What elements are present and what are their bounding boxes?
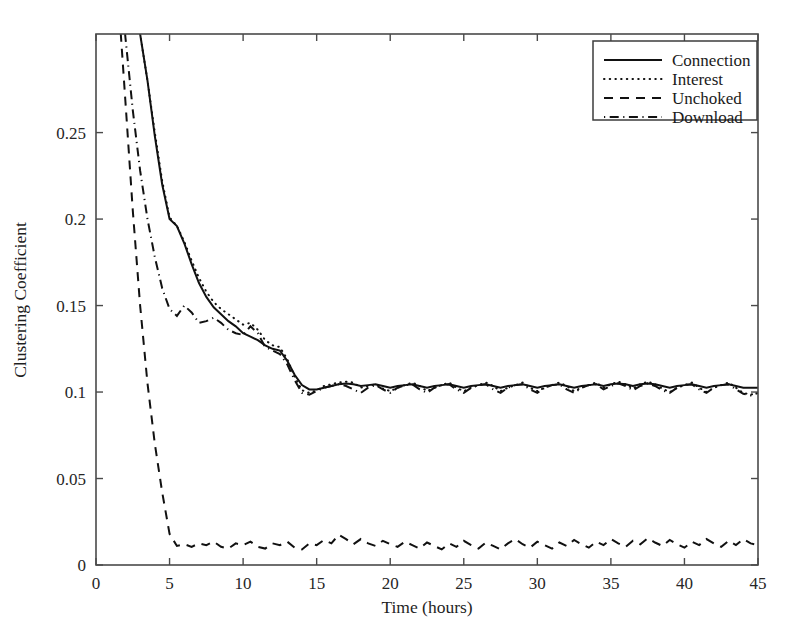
x-tick-label: 25 xyxy=(455,574,472,593)
y-axis-ticks: 00.050.10.150.20.25 xyxy=(56,124,758,575)
y-tick-label: 0.1 xyxy=(65,383,86,402)
plot-svg: 051015202530354045 00.050.10.150.20.25 T… xyxy=(0,0,801,643)
legend-label-interest: Interest xyxy=(672,70,723,89)
x-tick-label: 20 xyxy=(382,574,399,593)
legend-label-unchoked: Unchoked xyxy=(672,89,742,108)
clustering-coefficient-chart: 051015202530354045 00.050.10.150.20.25 T… xyxy=(0,0,801,643)
legend-label-connection: Connection xyxy=(672,51,751,70)
x-tick-label: 15 xyxy=(308,574,325,593)
y-tick-label: 0.2 xyxy=(65,210,86,229)
x-tick-label: 35 xyxy=(602,574,619,593)
y-tick-label: 0 xyxy=(78,556,87,575)
figure-root: 051015202530354045 00.050.10.150.20.25 T… xyxy=(0,0,801,643)
x-tick-label: 10 xyxy=(235,574,252,593)
legend[interactable]: ConnectionInterestUnchokedDownload xyxy=(593,41,757,127)
x-tick-label: 45 xyxy=(750,574,767,593)
y-axis-title: Clustering Coefficient xyxy=(10,222,30,378)
y-tick-label: 0.15 xyxy=(56,297,86,316)
y-tick-label: 0.05 xyxy=(56,470,86,489)
x-tick-label: 30 xyxy=(529,574,546,593)
y-tick-label: 0.25 xyxy=(56,124,86,143)
legend-label-download: Download xyxy=(672,108,743,127)
x-axis-title: Time (hours) xyxy=(381,597,472,617)
x-tick-label: 5 xyxy=(165,574,174,593)
x-tick-label: 40 xyxy=(676,574,693,593)
x-tick-label: 0 xyxy=(92,574,101,593)
